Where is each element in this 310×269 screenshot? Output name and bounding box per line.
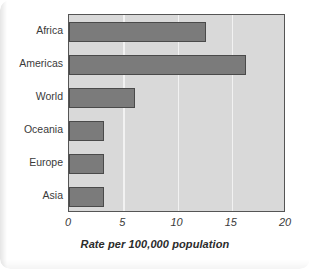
category-label-oceania: Oceania <box>0 123 63 135</box>
plot-area <box>68 14 285 212</box>
bar-americas <box>69 55 246 75</box>
x-tick-label-20: 20 <box>265 216 305 228</box>
x-tick-label-5: 5 <box>102 216 142 228</box>
x-axis-title: Rate per 100,000 population <box>0 238 310 250</box>
x-tick-label-15: 15 <box>211 216 251 228</box>
x-tick-label-10: 10 <box>157 216 197 228</box>
x-tick-label-0: 0 <box>48 216 88 228</box>
category-label-europe: Europe <box>0 156 63 168</box>
bar-oceania <box>69 121 104 141</box>
bar-asia <box>69 187 104 207</box>
bar-africa <box>69 22 206 42</box>
category-label-asia: Asia <box>0 189 63 201</box>
bar-world <box>69 88 135 108</box>
gridline-5 <box>123 15 125 211</box>
category-label-americas: Americas <box>0 57 63 69</box>
gridline-10 <box>178 15 180 211</box>
chart-figure-card: Rate per 100,000 population AfricaAmeric… <box>0 0 310 269</box>
gridline-15 <box>232 15 234 211</box>
category-label-africa: Africa <box>0 24 63 36</box>
category-label-world: World <box>0 90 63 102</box>
bar-europe <box>69 154 104 174</box>
